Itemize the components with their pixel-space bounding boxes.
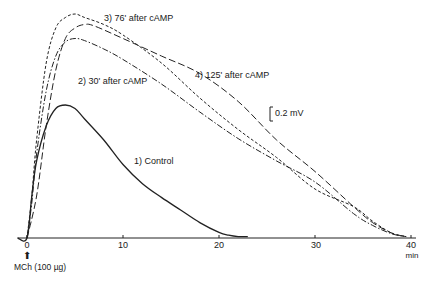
x-tick-0: 0 [24, 240, 29, 250]
series-line-1 [17, 105, 247, 241]
x-axis-unit: min [406, 251, 419, 260]
x-tick-30: 30 [311, 240, 321, 250]
series-label-control: 1) Control [134, 156, 174, 166]
up-arrow-icon: ⬆ [23, 250, 31, 261]
series-line-4 [27, 24, 406, 238]
series-label-2: 2) 30' after cAMP [78, 76, 147, 86]
series-label-4: 4) 125' after cAMP [195, 70, 269, 80]
x-tick-40: 40 [406, 240, 416, 250]
scale-bar-label: 0.2 mV [275, 108, 304, 118]
series-label-3: 3) 76' after cAMP [104, 13, 173, 23]
x-tick-20: 20 [214, 240, 224, 250]
x-tick-10: 10 [118, 240, 128, 250]
series-line-2 [27, 38, 406, 238]
series-line-3 [27, 14, 406, 238]
scale-bar [270, 107, 273, 121]
stimulus-label: MCh (100 µg) [14, 262, 66, 272]
